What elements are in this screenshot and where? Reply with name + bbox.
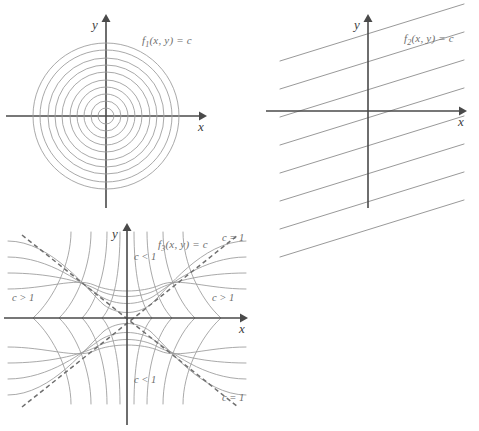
y-axis-arrowhead xyxy=(364,14,373,22)
y-axis-label: y xyxy=(352,17,360,32)
hyperbolas-panel: y x f3(x, y) = c c > 1 c > 1 c < 1 c < 1… xyxy=(0,213,262,431)
function-label-rest: (x, y) = c xyxy=(149,34,191,47)
label-c-less-than-1-top: c < 1 xyxy=(134,251,156,262)
function-label-rest: (x, y) = c xyxy=(411,32,453,45)
label-c-greater-than-1-left: c > 1 xyxy=(12,292,34,303)
y-axis-arrowhead xyxy=(123,223,132,231)
function-label-rest: (x, y) = c xyxy=(165,238,207,251)
hyperbolas-plot: y x f3(x, y) = c c > 1 c > 1 c < 1 c < 1… xyxy=(0,213,262,431)
x-axis-label: x xyxy=(197,119,204,134)
lines-plot: y x f2(x, y) = c xyxy=(258,0,479,215)
label-c-equals-1-bottom-right: c = 1 xyxy=(222,392,244,403)
concentric-circles-panel: y x f1(x, y) = c xyxy=(0,0,250,215)
x-axis-label: x xyxy=(238,321,245,336)
level-line xyxy=(280,200,464,257)
function-label-f1: f1(x, y) = c xyxy=(142,34,192,49)
circles-plot: y x f1(x, y) = c xyxy=(0,0,250,215)
label-c-equals-1-top-right: c = 1 xyxy=(222,232,244,243)
level-line xyxy=(280,116,464,173)
x-axis-label: x xyxy=(457,114,464,129)
function-label-f2: f2(x, y) = c xyxy=(404,32,454,47)
label-c-less-than-1-bottom: c < 1 xyxy=(134,374,156,385)
level-line xyxy=(280,172,464,229)
function-label-f3: f3(x, y) = c xyxy=(158,238,208,253)
level-line xyxy=(280,144,464,201)
y-axis-label: y xyxy=(110,226,118,241)
level-line xyxy=(280,88,464,145)
level-curves-figure: y x f1(x, y) = c xyxy=(0,0,479,431)
asymptotes-group xyxy=(22,235,238,407)
y-axis-arrowhead xyxy=(102,14,111,22)
level-line xyxy=(280,60,464,117)
label-c-greater-than-1-right: c > 1 xyxy=(212,292,234,303)
parallel-lines-panel: y x f2(x, y) = c xyxy=(258,0,479,215)
y-axis-label: y xyxy=(90,17,98,32)
